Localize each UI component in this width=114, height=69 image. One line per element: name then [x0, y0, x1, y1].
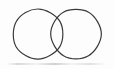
diagram-background — [0, 0, 114, 69]
figure-canvas — [0, 0, 114, 69]
venn-diagram — [0, 0, 114, 69]
